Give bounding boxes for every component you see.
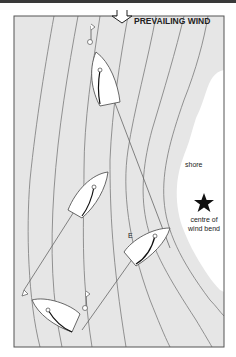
bend-label-line2: wind bend: [187, 225, 220, 232]
shore-label: shore: [185, 161, 203, 168]
bend-label-line1: centre of: [190, 216, 217, 223]
wind-bend-diagram: PREVAILING WIND E shore: [0, 0, 236, 357]
boat-marker-label: E: [128, 232, 133, 239]
wind-label: PREVAILING WIND: [134, 16, 210, 26]
